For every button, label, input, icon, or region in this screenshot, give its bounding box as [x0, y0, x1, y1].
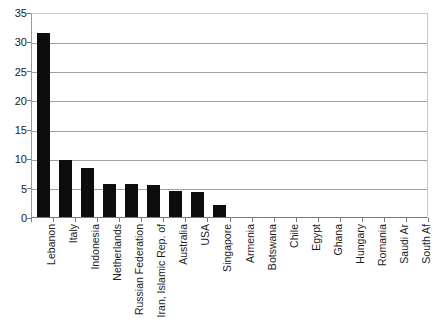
x-tick-label: Hungary: [355, 224, 366, 264]
x-tick-label-text: Singapore: [222, 224, 233, 272]
x-tick-label-text: Indonesia: [90, 224, 101, 270]
x-tick-label: Iran, Islamic Rep. of: [156, 224, 167, 317]
y-tick-label: 15: [3, 125, 27, 136]
bar: [37, 33, 50, 218]
x-tick-mark: [75, 218, 76, 222]
y-tick-label: 10: [3, 154, 27, 165]
x-tick-mark: [97, 218, 98, 222]
x-tick-label-text: Australia: [178, 224, 189, 265]
y-tick-mark: [27, 42, 31, 43]
x-tick-mark: [274, 218, 275, 222]
x-tick-label: Australia: [178, 224, 189, 265]
x-tick-label: Romania: [377, 224, 388, 266]
y-tick-mark: [27, 100, 31, 101]
y-tick-label: 20: [3, 96, 27, 107]
gridline: [32, 43, 427, 44]
x-tick-label: Saudi Ar: [399, 224, 410, 264]
x-tick-mark: [340, 218, 341, 222]
bar: [169, 191, 182, 217]
bar: [103, 184, 116, 217]
gridline: [32, 131, 427, 132]
y-tick-label: 30: [3, 37, 27, 48]
y-tick-label: 5: [3, 184, 27, 195]
x-tick-label: Armenia: [245, 224, 256, 263]
x-tick-mark: [362, 218, 363, 222]
x-tick-label: Botswana: [267, 224, 278, 270]
y-tick-mark: [27, 71, 31, 72]
plot-area: [31, 13, 428, 218]
x-tick-label-text: Botswana: [267, 224, 278, 270]
x-tick-label: Netherlands: [112, 224, 123, 281]
gridline: [32, 72, 427, 73]
bar: [81, 168, 94, 217]
y-tick-label: 0: [3, 213, 27, 224]
x-tick-label-text: Iran, Islamic Rep. of: [156, 224, 167, 317]
x-tick-label-text: Egypt: [311, 224, 322, 251]
x-tick-label: Ghana: [333, 224, 344, 256]
x-tick-label: Chile: [289, 224, 300, 248]
y-tick-label: 25: [3, 67, 27, 78]
bar: [213, 205, 226, 217]
x-tick-mark: [428, 218, 429, 222]
x-tick-label: Egypt: [311, 224, 322, 251]
x-tick-mark: [163, 218, 164, 222]
y-tick-mark: [27, 188, 31, 189]
y-tick-label: 35: [3, 8, 27, 19]
gridline: [32, 101, 427, 102]
x-tick-label-text: Netherlands: [112, 224, 123, 281]
x-tick-label-text: Chile: [289, 224, 300, 248]
x-tick-label-text: Hungary: [355, 224, 366, 264]
x-tick-mark: [119, 218, 120, 222]
x-tick-label-text: Russian Federation: [134, 224, 145, 315]
x-tick-label: Singapore: [222, 224, 233, 272]
x-tick-label: Russian Federation: [134, 224, 145, 315]
x-tick-mark: [318, 218, 319, 222]
x-tick-mark: [384, 218, 385, 222]
x-tick-label-text: Lebanon: [46, 224, 57, 265]
x-tick-label-text: South Af: [421, 224, 432, 264]
bar: [125, 184, 138, 217]
x-tick-mark: [185, 218, 186, 222]
bar-chart: 05101520253035 LebanonItalyIndonesiaNeth…: [0, 0, 442, 328]
x-tick-label-text: Armenia: [245, 224, 256, 263]
y-tick-mark: [27, 13, 31, 14]
x-tick-mark: [141, 218, 142, 222]
x-tick-mark: [406, 218, 407, 222]
gridline: [32, 160, 427, 161]
y-tick-mark: [27, 159, 31, 160]
x-tick-label-text: Italy: [68, 224, 79, 243]
bar: [191, 192, 204, 217]
x-tick-mark: [53, 218, 54, 222]
x-tick-label-text: Ghana: [333, 224, 344, 256]
x-tick-label-text: Saudi Ar: [399, 224, 410, 264]
bar: [59, 160, 72, 217]
x-tick-label: Italy: [68, 224, 79, 243]
x-tick-mark: [296, 218, 297, 222]
bar: [147, 185, 160, 217]
x-tick-label: Indonesia: [90, 224, 101, 270]
y-tick-mark: [27, 130, 31, 131]
x-tick-label: Lebanon: [46, 224, 57, 265]
x-tick-label: USA: [200, 224, 211, 246]
x-tick-mark: [207, 218, 208, 222]
x-tick-label: South Af: [421, 224, 432, 264]
x-tick-mark: [230, 218, 231, 222]
x-tick-label-text: USA: [200, 224, 211, 246]
y-axis: 05101520253035: [0, 13, 27, 218]
x-tick-mark: [252, 218, 253, 222]
x-tick-label-text: Romania: [377, 224, 388, 266]
x-tick-mark: [31, 218, 32, 222]
